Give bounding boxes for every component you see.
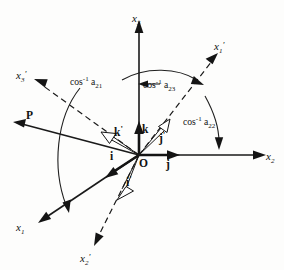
- coordinate-frame-diagram: x3 x2 x1 x1' x3' x2' O P k j i: [0, 0, 284, 270]
- unit-vector-k-prime-label: k': [114, 124, 123, 138]
- figure-canvas: x3 x2 x1 x1' x3' x2' O P k j i: [0, 0, 284, 270]
- unit-vector-k-label: k: [142, 123, 149, 135]
- angle-arc-left: [58, 88, 80, 213]
- axis-label-x1-prime: x1': [213, 40, 225, 55]
- origin-label: O: [139, 157, 148, 169]
- axis-label-x2-prime: x2': [79, 252, 91, 267]
- axis-label-x3-prime: x3': [15, 69, 27, 84]
- axis-label-x3: x3: [131, 12, 141, 27]
- unit-vector-i-prime-label: i': [126, 174, 132, 188]
- angle-label-cos-inv-a21: cos-1 a21: [70, 75, 103, 90]
- unit-vector-i-label: i: [110, 150, 114, 162]
- angle-label-cos-inv-a22: cos-1 a22: [183, 115, 216, 130]
- angle-label-cos-inv-a23: cos-1 a23: [143, 78, 176, 93]
- axis-label-x1: x1: [15, 221, 24, 236]
- unit-vector-j-label: j: [165, 158, 170, 171]
- axis-label-x2: x2: [265, 150, 275, 165]
- vector-p-label: P: [26, 109, 33, 121]
- unit-vector-j-prime-label: j': [158, 130, 165, 145]
